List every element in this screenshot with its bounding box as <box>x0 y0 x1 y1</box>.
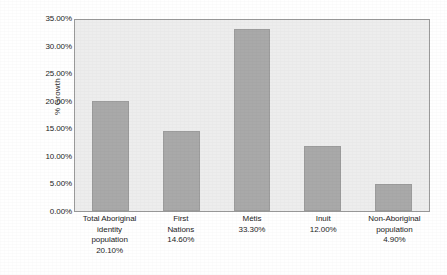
x-axis-label-line: Non-Aboriginal <box>359 214 430 225</box>
y-axis-tick-label: 15.00% <box>45 125 72 133</box>
bar-metis <box>234 29 271 211</box>
plot-area <box>74 19 430 212</box>
x-axis-label-line: Nations <box>145 225 216 236</box>
x-axis-label-value: 20.10% <box>74 246 145 257</box>
x-axis-label-line: Total Aboriginal <box>74 214 145 225</box>
bar-non-aboriginal-population <box>375 184 412 211</box>
bars-container <box>75 20 429 211</box>
x-axis-label-line: population <box>359 225 430 236</box>
x-axis-tick-label: Inuit 12.00% <box>288 214 359 235</box>
y-axis-tick-label: 30.00% <box>45 43 72 51</box>
x-axis-label-value: 12.00% <box>288 225 359 236</box>
x-axis-label-line: Métis <box>216 214 287 225</box>
x-axis-tick-label: Total Aboriginal identity population 20.… <box>74 214 145 256</box>
x-axis-label-line: First <box>145 214 216 225</box>
y-axis-tick-labels: 35.00% 30.00% 25.00% 20.00% 15.00% 10.00… <box>36 19 74 212</box>
bar-chart: % Growth 35.00% 30.00% 25.00% 20.00% 15.… <box>0 0 447 275</box>
y-axis-tick-label: 35.00% <box>45 15 72 23</box>
y-axis-tick-label: 0.00% <box>50 208 72 216</box>
x-axis-label-line: population <box>74 235 145 246</box>
x-axis-label-value: 33.30% <box>216 225 287 236</box>
x-axis-tick-labels: Total Aboriginal identity population 20.… <box>74 214 430 272</box>
x-axis-tick-label: Métis 33.30% <box>216 214 287 235</box>
x-axis-label-value: 4.90% <box>359 235 430 246</box>
x-axis-label-line: identity <box>74 225 145 236</box>
x-axis-tick-label: Non-Aboriginal population 4.90% <box>359 214 430 246</box>
x-axis-tick-label: First Nations 14.60% <box>145 214 216 246</box>
y-axis-tick-label: 25.00% <box>45 70 72 78</box>
y-axis-tick-label: 5.00% <box>50 180 72 188</box>
bar-total-aboriginal-identity-population <box>92 101 129 211</box>
y-axis-tick-label: 10.00% <box>45 153 72 161</box>
x-axis-label-line: Inuit <box>288 214 359 225</box>
y-axis-tick-label: 20.00% <box>45 98 72 106</box>
bar-inuit <box>304 146 341 211</box>
bar-first-nations <box>163 131 200 211</box>
x-axis-label-value: 14.60% <box>145 235 216 246</box>
